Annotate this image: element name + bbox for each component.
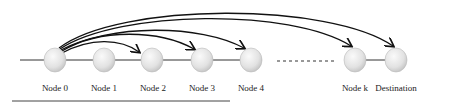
node-destination [385,48,407,72]
label-node-4: Node 4 [238,83,265,93]
node-k [344,48,366,72]
node-0 [44,48,66,72]
arrow-node0-to-nodek [60,19,351,49]
label-node-0: Node 0 [42,83,69,93]
label-node-1: Node 1 [91,83,117,93]
arrow-node0-to-node3 [62,34,194,51]
label-node-k: Node k [342,83,369,93]
node-4 [240,48,262,72]
node-1 [93,48,115,72]
label-destination: Destination [375,83,417,93]
node-3 [191,48,213,72]
node-2 [141,48,163,72]
label-node-2: Node 2 [140,83,166,93]
node-chain-diagram: Node 0 Node 1 Node 2 Node 3 Node 4 Node … [0,0,452,103]
label-node-3: Node 3 [189,83,216,93]
